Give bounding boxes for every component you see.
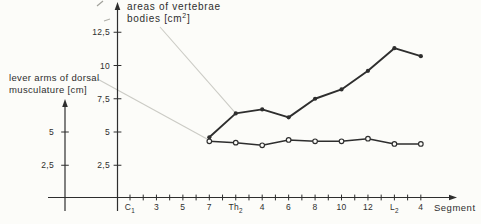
x-tick-label: 3	[154, 202, 159, 212]
leader-line-lever	[98, 79, 210, 140]
left-axis-label-line2: musculature [cm]	[9, 84, 99, 96]
series-vertebra-areas-point	[313, 97, 317, 101]
left-axis-arrowhead	[62, 99, 68, 107]
left-axis-tick-label: 5	[49, 127, 54, 137]
series-vertebra-areas-point	[207, 135, 211, 139]
series-vertebra-areas-point	[392, 46, 396, 50]
right-axis-tick-label: 5	[105, 127, 110, 137]
figure: SegmentC1357Th24681012L242,552,557,51012…	[0, 0, 481, 224]
series-vertebra-areas-point	[260, 107, 264, 111]
series-lever-arms-point	[419, 142, 424, 147]
x-tick-label: 5	[180, 202, 185, 212]
x-tick-label: 4	[418, 202, 423, 212]
leader-line-areas	[160, 27, 236, 113]
series-lever-arms-point	[313, 139, 318, 144]
left-axis-label-line1: lever arms of dorsal	[9, 72, 99, 84]
right-axis-arrowhead	[115, 2, 121, 10]
series-lever-arms-point	[286, 138, 291, 143]
right-axis-tick-label: 10	[100, 61, 110, 71]
chart-canvas: SegmentC1357Th24681012L242,552,557,51012…	[0, 0, 481, 224]
x-tick-label: Th2	[229, 202, 244, 214]
x-tick-label: 10	[336, 202, 346, 212]
series-vertebra-areas-point	[234, 111, 238, 115]
series-vertebra-areas-point	[339, 87, 343, 91]
x-tick-label: 12	[363, 202, 373, 212]
series-lever-arms-point	[233, 140, 238, 145]
x-tick-label: 4	[260, 202, 265, 212]
series-lever-arms-point	[392, 142, 397, 147]
right-axis-tick-label: 2,5	[97, 160, 110, 170]
scan-artifact	[97, 1, 103, 6]
x-tick-label: C1	[125, 202, 135, 214]
right-axis-label: areas of vertebrae bodies [cm2]	[127, 1, 221, 25]
series-vertebra-areas-point	[366, 69, 370, 73]
superscript-2: 2	[182, 12, 187, 19]
series-lever-arms-point	[339, 139, 344, 144]
x-tick-label: 8	[313, 202, 318, 212]
series-vertebra-areas-point	[287, 115, 291, 119]
scan-artifact	[104, 19, 110, 21]
x-axis-title: Segment	[434, 202, 476, 213]
series-lever-arms-point	[366, 136, 371, 141]
right-axis-tick-label: 12,5	[92, 27, 110, 37]
series-vertebra-areas-line	[209, 48, 421, 137]
left-axis-tick-label: 2,5	[41, 160, 54, 170]
left-axis-label: lever arms of dorsal musculature [cm]	[9, 72, 99, 96]
right-axis-label-line2: bodies [cm2]	[127, 13, 221, 25]
x-tick-label: 7	[207, 202, 212, 212]
series-vertebra-areas-point	[419, 54, 423, 58]
series-lever-arms-point	[207, 139, 212, 144]
x-tick-label: L2	[390, 202, 399, 214]
x-axis-arrowhead	[449, 195, 457, 201]
series-lever-arms-point	[260, 143, 265, 148]
x-tick-label: 6	[286, 202, 291, 212]
right-axis-label-line1: areas of vertebrae	[127, 1, 221, 13]
